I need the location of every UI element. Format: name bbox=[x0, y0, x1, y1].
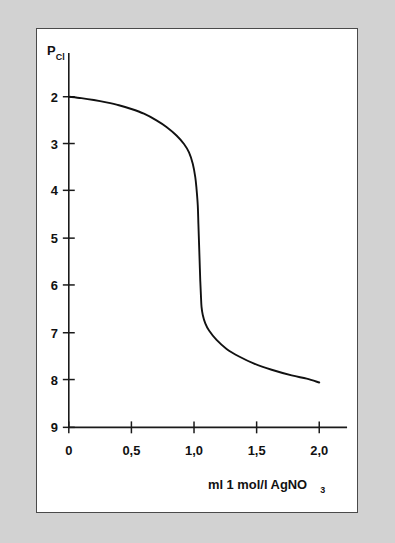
y-tick-label-5: 5 bbox=[51, 231, 58, 246]
y-axis-title-main: P bbox=[47, 43, 56, 58]
y-tick-label-8: 8 bbox=[51, 373, 58, 388]
y-tick-label-2: 2 bbox=[51, 90, 58, 105]
x-tick-label-2-0: 2,0 bbox=[310, 443, 328, 458]
x-axis-title-sub: 3 bbox=[320, 485, 325, 495]
x-axis-title-main: ml 1 mol/l AgNO bbox=[208, 477, 307, 492]
y-tick-label-7: 7 bbox=[51, 326, 58, 341]
y-axis-title: P Cl bbox=[47, 43, 65, 62]
x-axis-title: ml 1 mol/l AgNO 3 bbox=[208, 477, 325, 495]
y-axis-tick-labels: 2 3 4 5 6 7 8 9 bbox=[51, 90, 59, 436]
y-tick-label-3: 3 bbox=[51, 136, 58, 151]
y-axis-title-sub: Cl bbox=[56, 52, 65, 62]
titration-chart: 2 3 4 5 6 7 8 9 0 0,5 1,0 1,5 2,0 P bbox=[37, 29, 357, 512]
x-tick-label-0: 0 bbox=[65, 443, 72, 458]
x-tick-label-1-0: 1,0 bbox=[185, 443, 203, 458]
y-tick-label-6: 6 bbox=[51, 278, 58, 293]
x-axis-tick-labels: 0 0,5 1,0 1,5 2,0 bbox=[65, 443, 328, 458]
x-tick-label-1-5: 1,5 bbox=[248, 443, 266, 458]
y-tick-label-4: 4 bbox=[51, 183, 59, 198]
titration-curve-line bbox=[69, 97, 319, 383]
y-tick-label-9: 9 bbox=[51, 420, 58, 435]
figure-panel: 2 3 4 5 6 7 8 9 0 0,5 1,0 1,5 2,0 P bbox=[36, 28, 358, 513]
x-tick-label-0-5: 0,5 bbox=[122, 443, 140, 458]
